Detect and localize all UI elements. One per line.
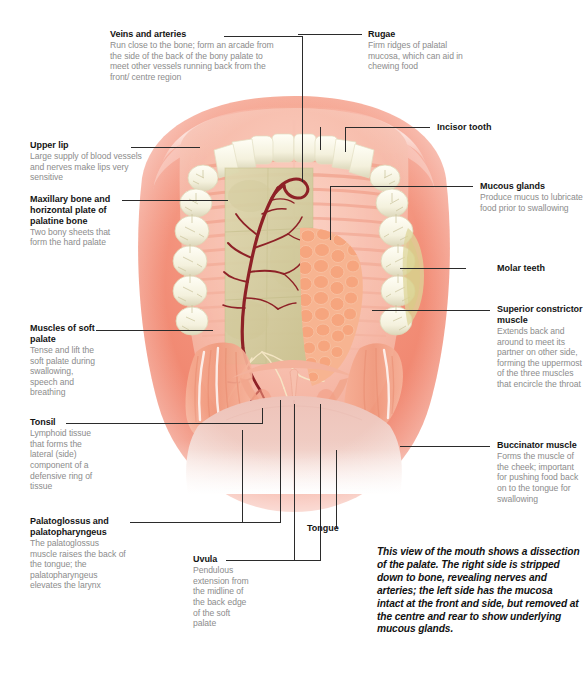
label-incisor-tooth: Incisor tooth xyxy=(437,122,492,133)
lower-molar-teeth xyxy=(193,431,395,481)
lip-and-oral-cavity xyxy=(138,96,450,512)
callout-maxillary-bone: Maxillary bone and horizontal plate of p… xyxy=(30,194,126,248)
tonsil-left xyxy=(252,389,272,415)
callout-body: Forms the muscle of the cheek; important… xyxy=(497,451,583,504)
callout-heading: Muscles of soft palate xyxy=(30,323,98,345)
callout-body: Large supply of blood vessels and nerves… xyxy=(30,151,150,183)
callout-body: Lymphoid tissue that forms the lateral (… xyxy=(30,428,106,492)
anatomy-figure: Veins and arteries Run close to the bone… xyxy=(0,0,588,686)
callout-uvula: Uvula Pendulous extension from the midli… xyxy=(193,554,255,629)
callout-body: Produce mucus to lubricate food prior to… xyxy=(480,192,584,213)
callout-tonsil: Tonsil Lymphoid tissue that forms the la… xyxy=(30,417,106,492)
veins-and-arteries xyxy=(223,179,308,452)
callout-heading: Buccinator muscle xyxy=(497,440,583,451)
callout-rugae: Rugae Firm ridges of palatal mucosa, whi… xyxy=(368,29,478,72)
callout-body: Firm ridges of palatal mucosa, which can… xyxy=(368,40,478,72)
callout-heading: Veins and arteries xyxy=(110,29,280,40)
callout-heading: Upper lip xyxy=(30,140,150,151)
callout-body: Run close to the bone; form an arcade fr… xyxy=(110,40,280,82)
callout-muscles-of-soft-palate: Muscles of soft palate Tense and lift th… xyxy=(30,323,98,398)
leader-lines xyxy=(66,34,490,560)
rugae-ridges xyxy=(192,160,396,350)
callout-body: Extends back and around to meet its part… xyxy=(497,326,585,390)
callout-heading: Superior constrictor muscle xyxy=(497,304,585,326)
callout-buccinator: Buccinator muscle Forms the muscle of th… xyxy=(497,440,583,504)
figure-caption: This view of the mouth shows a dissectio… xyxy=(377,546,581,636)
mucous-glands xyxy=(296,222,368,394)
callout-heading: Maxillary bone and horizontal plate of p… xyxy=(30,194,126,226)
callout-body: Pendulous extension from the midline of … xyxy=(193,565,255,629)
callout-palatoglossus: Palatoglossus and palatopharyngeus The p… xyxy=(30,516,126,591)
molar-teeth-right xyxy=(370,165,415,335)
callout-body: Tense and lift the soft palate during sw… xyxy=(30,345,98,398)
nerve-fibres xyxy=(225,352,324,418)
callout-heading: Rugae xyxy=(368,29,478,40)
molar-teeth-left xyxy=(173,165,218,335)
hard-and-soft-palate xyxy=(180,108,409,452)
callout-body: The palatoglossus muscle raises the back… xyxy=(30,538,126,591)
callout-heading: Mucous glands xyxy=(480,181,584,192)
teeth-arch xyxy=(173,134,415,481)
callout-superior-constrictor: Superior constrictor muscle Extends back… xyxy=(497,304,585,390)
callout-heading: Uvula xyxy=(193,554,255,565)
muscles-of-soft-palate xyxy=(185,342,252,440)
tonsil-right xyxy=(316,389,336,415)
maxillary-palatine-bone-panel xyxy=(221,168,313,364)
callout-heading: Palatoglossus and palatopharyngeus xyxy=(30,516,126,538)
callout-veins-and-arteries: Veins and arteries Run close to the bone… xyxy=(110,29,280,83)
label-tongue: Tongue xyxy=(307,523,339,534)
palatoglossal-arches-and-uvula xyxy=(232,360,356,428)
callout-mucous-glands: Mucous glands Produce mucus to lubricate… xyxy=(480,181,584,213)
label-molar-teeth: Molar teeth xyxy=(497,263,545,274)
superior-constrictor-and-buccinator xyxy=(344,228,424,438)
incisor-teeth xyxy=(214,134,374,178)
tongue xyxy=(186,396,402,494)
callout-upper-lip: Upper lip Large supply of blood vessels … xyxy=(30,140,150,183)
callout-heading: Tonsil xyxy=(30,417,106,428)
callout-body: Two bony sheets that form the hard palat… xyxy=(30,227,126,248)
uvula-shape xyxy=(290,369,298,404)
